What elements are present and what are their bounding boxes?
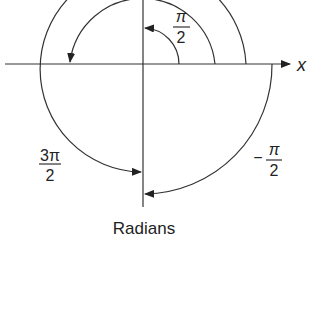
- caption: Radians: [113, 219, 175, 238]
- svg-text:−: −: [253, 149, 262, 166]
- arc-neg-pi-over-2: [145, 64, 272, 194]
- radians-diagram: x π 2 3π 2 − π 2 Radians: [0, 0, 310, 315]
- svg-text:2: 2: [177, 29, 186, 46]
- svg-text:2: 2: [46, 167, 55, 184]
- x-axis-label: x: [296, 55, 307, 75]
- label-neg-pi-over-2: − π 2: [253, 141, 282, 179]
- svg-text:2: 2: [270, 162, 279, 179]
- label-three-pi-over-2: 3π 2: [39, 147, 61, 184]
- svg-text:π: π: [269, 141, 280, 158]
- svg-text:π: π: [176, 8, 187, 25]
- svg-text:3π: 3π: [40, 147, 60, 164]
- arc-pi-over-2: [145, 28, 179, 64]
